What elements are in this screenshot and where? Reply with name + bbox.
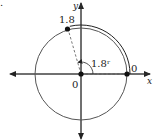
origin-label: 0 xyxy=(72,79,78,90)
y-axis-label: y xyxy=(72,1,79,11)
angle-label: 1.8ʳ xyxy=(91,58,110,69)
dashed-radius xyxy=(68,29,81,74)
start-point xyxy=(124,71,129,76)
origin-point xyxy=(78,71,83,76)
x-axis-label: x xyxy=(147,76,152,86)
start-point-label: 0 xyxy=(131,63,137,74)
end-point xyxy=(65,26,70,31)
end-point-label: 1.8 xyxy=(59,14,75,25)
unit-circle-diagram: . y x 1.8 0 0 1.8ʳ xyxy=(0,0,153,140)
corner-fragment: . xyxy=(0,0,3,8)
